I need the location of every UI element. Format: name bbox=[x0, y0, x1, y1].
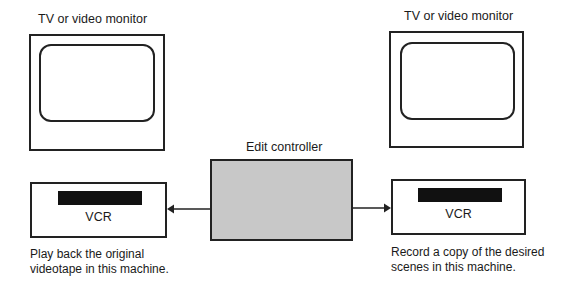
arrow-to-right-vcr bbox=[353, 204, 391, 213]
connection-arrows bbox=[0, 0, 565, 285]
arrow-to-left-vcr bbox=[167, 205, 210, 214]
